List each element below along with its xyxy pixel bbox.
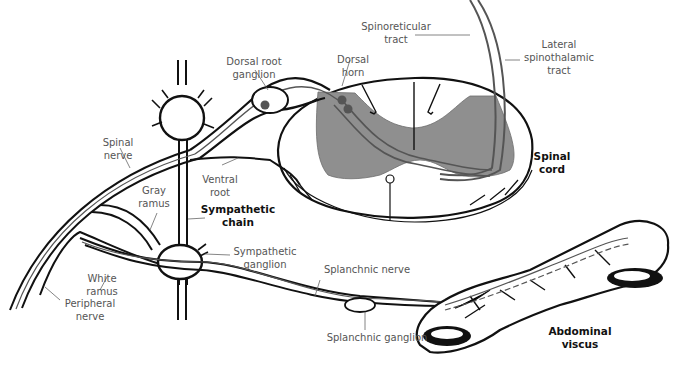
label-abdominal-viscus: Abdominal viscus [545,325,615,351]
label-peripheral-nerve: Peripheral nerve [62,297,118,323]
label-spinoreticular-tract: Spinoreticular tract [360,20,432,46]
gray-ramus [92,205,160,250]
label-white-ramus: White ramus [80,272,124,298]
label-gray-ramus: Gray ramus [135,184,173,210]
label-sympathetic-ganglion: Sympathetic ganglion [228,245,302,271]
label-splanchnic-nerve: Splanchnic nerve [317,263,417,276]
label-spinal-nerve: Spinal nerve [98,136,138,162]
label-dorsal-horn: Dorsal horn [333,53,373,79]
label-splanchnic-ganglion: Splanchnic ganglion [318,331,436,344]
label-sympathetic-chain: Sympathetic chain [200,203,276,229]
label-lateral-spinothalamic-tract: Lateral spinothalamic tract [520,38,598,77]
label-spinal-cord: Spinal cord [532,150,572,176]
label-ventral-root: Ventral root [198,173,242,199]
dorsal-horn-neuron [338,96,347,105]
abdominal-viscus [417,221,668,352]
dorsal-horn-neuron [344,105,353,114]
dorsal-root-ganglion [252,87,288,113]
splanchnic-ganglion [345,298,375,312]
upper-sympathetic-ganglion [152,60,214,140]
label-dorsal-root-ganglion: Dorsal root ganglion [222,55,286,81]
